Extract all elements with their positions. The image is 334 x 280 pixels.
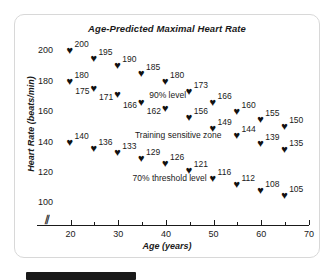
heart-icon: ♥ (138, 153, 145, 164)
heart-icon: ♥ (90, 83, 97, 94)
x-tick-major (309, 220, 310, 225)
x-tick-major (71, 220, 72, 225)
heart-icon: ♥ (162, 76, 169, 87)
data-point-label: 160 (241, 101, 255, 110)
data-point-label: 112 (241, 174, 255, 183)
y-tick-label: 120 (27, 167, 53, 177)
annotation-70-threshold: 70% threshold level (133, 173, 207, 183)
data-point-label: 171 (99, 93, 113, 102)
data-point-label: 200 (75, 40, 89, 49)
x-tick-minor (285, 222, 286, 225)
heart-icon: ♥ (257, 114, 264, 125)
y-tick-label: 180 (27, 76, 53, 86)
data-point-label: 149 (218, 118, 232, 127)
data-point-label: 166 (123, 101, 137, 110)
data-point-label: 105 (289, 185, 303, 194)
data-point-label: 135 (289, 139, 303, 148)
data-point-label: 180 (170, 71, 184, 80)
data-point-label: 121 (194, 160, 208, 169)
heart-icon: ♥ (162, 158, 169, 169)
annotation-90-level: 90% level (149, 90, 186, 100)
data-point-label: 108 (265, 180, 279, 189)
x-tick-minor (190, 222, 191, 225)
x-tick-minor (94, 222, 95, 225)
x-tick-minor (237, 222, 238, 225)
data-point-label: 126 (170, 153, 184, 162)
x-tick-label: 50 (202, 229, 226, 239)
heart-icon: ♥ (186, 86, 193, 97)
heart-icon: ♥ (162, 103, 169, 114)
data-point-label: 180 (75, 71, 89, 80)
chart-panel: Age-Predicted Maximal Heart Rate Heart R… (14, 14, 320, 258)
data-point-label: 195 (98, 48, 112, 57)
x-tick-label: 20 (59, 229, 83, 239)
data-point-label: 136 (98, 138, 112, 147)
heart-icon: ♥ (90, 143, 97, 154)
data-point-label: 150 (289, 116, 303, 125)
heart-icon: ♥ (138, 68, 145, 79)
y-tick-label: 100 (27, 197, 53, 207)
heart-icon: ♥ (210, 173, 217, 184)
x-tick-label: 40 (154, 229, 178, 239)
heart-icon: ♥ (233, 106, 240, 117)
x-tick-label: 60 (249, 229, 273, 239)
data-point-label: 185 (146, 63, 160, 72)
axis-break-icon: ⫽ (45, 215, 49, 227)
data-point-label: 175 (75, 87, 89, 96)
y-tick-label: 160 (27, 106, 53, 116)
data-point-label: 173 (194, 81, 208, 90)
x-tick-major (166, 220, 167, 225)
x-tick-major (214, 220, 215, 225)
x-axis-line (37, 225, 309, 226)
x-tick-label: 70 (297, 229, 321, 239)
x-tick-minor (142, 222, 143, 225)
bottom-status-bar (26, 272, 136, 280)
data-point-label: 156 (194, 107, 208, 116)
heart-icon: ♥ (114, 147, 121, 158)
data-point-label: 129 (146, 148, 160, 157)
heart-icon: ♥ (114, 60, 121, 71)
data-point-label: 155 (265, 109, 279, 118)
heart-icon: ♥ (138, 97, 145, 108)
heart-icon: ♥ (67, 76, 74, 87)
heart-icon: ♥ (67, 137, 74, 148)
data-point-label: 166 (218, 92, 232, 101)
data-point-label: 190 (122, 55, 136, 64)
data-point-label: 139 (265, 133, 279, 142)
heart-icon: ♥ (114, 89, 121, 100)
x-tick-major (261, 220, 262, 225)
x-tick-label: 30 (106, 229, 130, 239)
data-point-label: 116 (218, 168, 232, 177)
annotation-training-zone: Training sensitive zone (135, 130, 222, 140)
heart-icon: ♥ (67, 45, 74, 56)
data-point-label: 144 (241, 125, 255, 134)
heart-icon: ♥ (281, 144, 288, 155)
heart-icon: ♥ (210, 97, 217, 108)
y-tick-label: 140 (27, 137, 53, 147)
data-point-label: 140 (75, 132, 89, 141)
x-tick-major (118, 220, 119, 225)
heart-icon: ♥ (90, 53, 97, 64)
heart-icon: ♥ (257, 138, 264, 149)
heart-icon: ♥ (281, 121, 288, 132)
heart-icon: ♥ (186, 112, 193, 123)
heart-icon: ♥ (233, 179, 240, 190)
plot-area: 200180160140120100⫽203040506070♥200♥195♥… (15, 15, 319, 257)
heart-icon: ♥ (233, 130, 240, 141)
heart-icon: ♥ (257, 185, 264, 196)
data-point-label: 162 (147, 107, 161, 116)
data-point-label: 133 (122, 142, 136, 151)
heart-icon: ♥ (281, 190, 288, 201)
y-tick-label: 200 (27, 45, 53, 55)
